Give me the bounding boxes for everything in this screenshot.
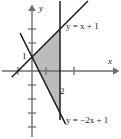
curve-label-line2: y = −2x + 1	[66, 116, 108, 125]
curve-label-line1: y = x + 1	[66, 22, 99, 31]
x-tick-label-2: 2	[60, 87, 65, 96]
y-axis-label: y	[39, 4, 43, 13]
graph-figure: y x 1 2 y = x + 1 y = −2x + 1	[0, 0, 121, 139]
y-tick-label-1: 1	[22, 52, 27, 61]
x-axis-label: x	[108, 57, 112, 66]
